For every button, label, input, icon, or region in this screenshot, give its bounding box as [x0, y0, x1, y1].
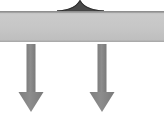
figure-canvas: Loaded beam suspended from a point suppo… — [0, 0, 164, 118]
beam-body — [0, 11, 164, 42]
beam-bottom-edge — [0, 41, 164, 42]
beam-load-diagram — [0, 0, 164, 118]
beam — [0, 11, 164, 42]
arrow-shaft — [27, 44, 36, 92]
beam-top-edge — [0, 11, 164, 13]
arrow-shaft — [98, 44, 107, 92]
